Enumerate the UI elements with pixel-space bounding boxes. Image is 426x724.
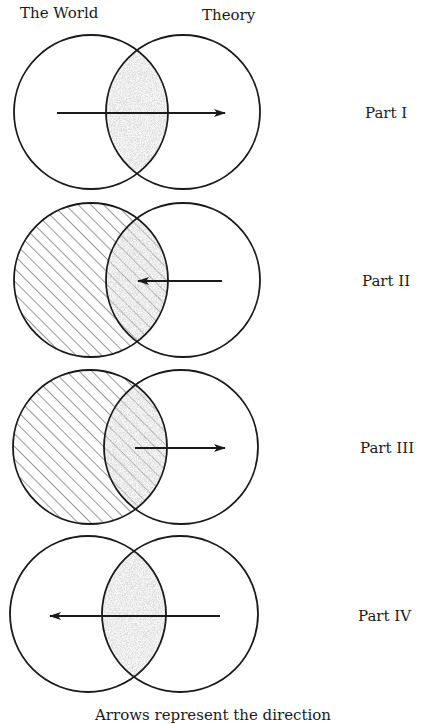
part-1-label: Part I (365, 104, 407, 122)
caption: Arrows represent the direction (0, 706, 426, 724)
part-2-label: Part II (362, 272, 410, 290)
part-3-label: Part III (360, 439, 414, 457)
part-4-label: Part IV (358, 607, 411, 625)
